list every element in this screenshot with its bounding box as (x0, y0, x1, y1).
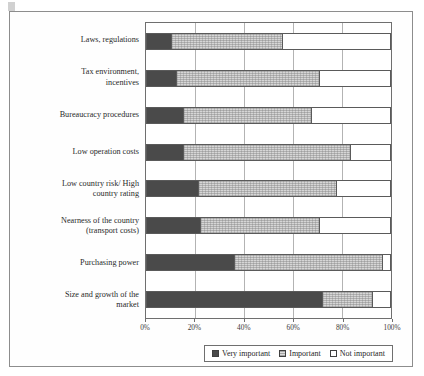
legend-item[interactable]: Important (279, 349, 321, 358)
stacked-bar[interactable] (146, 107, 391, 124)
bar-segment-very[interactable] (147, 34, 171, 49)
legend-label: Important (289, 349, 321, 358)
table-row (146, 134, 391, 171)
bar-segment-imp[interactable] (183, 108, 312, 123)
bar-segment-very[interactable] (147, 181, 198, 196)
x-axis-tick-label: 0% (140, 323, 150, 332)
x-axis-tick (244, 319, 245, 322)
category-label-line: incentives (81, 78, 139, 88)
bar-segment-very[interactable] (147, 145, 183, 160)
bar-segment-imp[interactable] (198, 181, 337, 196)
bar-segment-not[interactable] (373, 292, 390, 307)
legend-label: Not important (340, 349, 385, 358)
category-label-line: Low operation costs (73, 147, 139, 157)
bar-segment-not[interactable] (283, 34, 390, 49)
legend-label: Very important (222, 349, 270, 358)
bar-segment-imp[interactable] (322, 292, 373, 307)
category-label-line: Purchasing power (80, 258, 139, 268)
category-label: Purchasing power (22, 245, 142, 282)
table-row (146, 281, 391, 318)
bar-segment-not[interactable] (337, 181, 390, 196)
plot-area (145, 22, 392, 319)
x-axis-tick-label: 60% (286, 323, 299, 332)
stacked-bar[interactable] (146, 217, 391, 234)
bar-segment-not[interactable] (320, 71, 390, 86)
stacked-bar[interactable] (146, 180, 391, 197)
legend-swatch-very (212, 350, 219, 357)
x-axis-tick (343, 319, 344, 322)
category-label: Size and growth of themarket (22, 282, 142, 319)
table-row (146, 244, 391, 281)
chart-legend: Very importantImportantNot important (204, 345, 393, 362)
x-axis-tick (145, 319, 146, 322)
legend-swatch-not (330, 350, 337, 357)
category-label-line: (transport costs) (61, 226, 139, 236)
x-axis-tick-label: 40% (237, 323, 250, 332)
bar-segment-very[interactable] (147, 71, 176, 86)
x-axis-tick (194, 319, 195, 322)
category-label-line: country rating (62, 189, 139, 199)
stacked-bar[interactable] (146, 144, 391, 161)
stacked-bar[interactable] (146, 254, 391, 271)
table-row (146, 23, 391, 60)
category-label: Low operation costs (22, 133, 142, 170)
bar-segment-not[interactable] (383, 255, 390, 270)
x-axis: 0%20%40%60%80%100% (145, 319, 392, 335)
x-axis-tick-label: 80% (336, 323, 349, 332)
legend-item[interactable]: Not important (330, 349, 385, 358)
bar-segment-not[interactable] (351, 145, 390, 160)
legend-swatch-imp (279, 350, 286, 357)
category-label-line: Tax environment, (81, 67, 139, 77)
bar-segment-very[interactable] (147, 108, 183, 123)
table-row (146, 171, 391, 208)
bar-segment-imp[interactable] (234, 255, 382, 270)
table-row (146, 97, 391, 134)
category-label: Low country risk/ Highcountry rating (22, 171, 142, 208)
category-label-line: Size and growth of the (65, 290, 139, 300)
stacked-bar[interactable] (146, 291, 391, 308)
stacked-bar[interactable] (146, 70, 391, 87)
bar-segment-not[interactable] (312, 108, 390, 123)
category-label-line: Laws, regulations (81, 35, 139, 45)
category-label: Laws, regulations (22, 22, 142, 59)
bar-segment-very[interactable] (147, 292, 322, 307)
category-label-line: market (65, 300, 139, 310)
category-label: Nearness of the country(transport costs) (22, 208, 142, 245)
x-axis-tick-label: 100% (383, 323, 400, 332)
stacked-bar[interactable] (146, 33, 391, 50)
stacked-bar-rows (146, 23, 391, 318)
x-axis-tick-label: 20% (188, 323, 201, 332)
category-axis-labels: Laws, regulationsTax environment,incenti… (22, 22, 142, 319)
bar-segment-imp[interactable] (171, 34, 283, 49)
bar-segment-very[interactable] (147, 255, 234, 270)
category-label: Tax environment,incentives (22, 59, 142, 96)
bar-segment-imp[interactable] (183, 145, 351, 160)
x-axis-tick (293, 319, 294, 322)
x-axis-tick (392, 319, 393, 322)
table-row (146, 60, 391, 97)
bar-segment-very[interactable] (147, 218, 200, 233)
chart-figure-frame: Laws, regulationsTax environment,incenti… (9, 11, 413, 367)
bar-segment-not[interactable] (320, 218, 390, 233)
category-label: Bureaucracy procedures (22, 96, 142, 133)
category-label-line: Bureaucracy procedures (60, 110, 139, 120)
scan-artifact-mark (8, 2, 15, 11)
category-label-line: Low country risk/ High (62, 179, 139, 189)
category-label-line: Nearness of the country (61, 216, 139, 226)
bar-segment-imp[interactable] (200, 218, 319, 233)
legend-item[interactable]: Very important (212, 349, 270, 358)
bar-segment-imp[interactable] (176, 71, 319, 86)
table-row (146, 207, 391, 244)
